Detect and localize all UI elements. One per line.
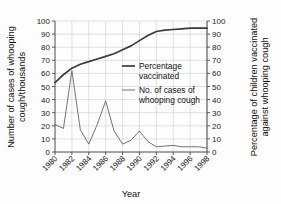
y-tick-label-right: 80 <box>212 43 221 52</box>
y-tick-label-left: 80 <box>41 43 50 52</box>
y-tick-label-left: 90 <box>41 30 50 39</box>
x-tick-label: 1998 <box>192 154 211 173</box>
y-tick-label-left: 20 <box>41 122 50 131</box>
legend-label-percentage-line2: vaccinated <box>139 71 179 81</box>
x-tick-label: 1992 <box>142 154 161 173</box>
y-tick-label-right: 90 <box>212 30 221 39</box>
y-axis-left-title-line1: Number of cases of whooping <box>6 26 16 148</box>
y-tick-label-left: 40 <box>41 96 50 105</box>
y-tick-label-right: 60 <box>212 69 221 78</box>
y-tick-label-right: 50 <box>212 83 221 92</box>
x-tick-label: 1996 <box>176 154 195 173</box>
x-tick-label: 1988 <box>108 154 127 173</box>
x-tick-label: 1984 <box>74 154 93 173</box>
y-tick-label-right: 40 <box>212 96 221 105</box>
legend-label-cases-line1: No. of cases of <box>139 85 196 95</box>
y-tick-label-left: 10 <box>41 135 50 144</box>
x-axis-title: Year <box>122 189 141 199</box>
y-tick-label-left: 50 <box>41 83 50 92</box>
series-line-cases <box>55 71 207 148</box>
x-tick-label: 1986 <box>91 154 110 173</box>
y-tick-label-left: 0 <box>46 148 51 157</box>
y-tick-label-left: 30 <box>41 109 50 118</box>
legend-label-cases-line2: whooping cough <box>138 95 200 105</box>
y-tick-label-right: 0 <box>212 148 217 157</box>
y-tick-label-right: 70 <box>212 56 221 65</box>
y-axis-left-title-line2: cough/thousands <box>17 52 27 122</box>
y-axis-left-ticks: 0102030405060708090100 <box>37 17 55 157</box>
y-tick-label-right: 100 <box>212 17 226 26</box>
x-tick-label: 1990 <box>125 154 144 173</box>
y-tick-label-left: 70 <box>41 56 50 65</box>
y-tick-label-right: 10 <box>212 135 221 144</box>
y-tick-label-left: 100 <box>37 17 51 26</box>
y-tick-label-left: 60 <box>41 69 50 78</box>
line-chart: 0102030405060708090100 01020304050607080… <box>0 0 281 204</box>
y-axis-right-title-line2: against whooping cough <box>260 37 270 136</box>
chart-figure: 0102030405060708090100 01020304050607080… <box>0 0 281 204</box>
y-tick-label-right: 30 <box>212 109 221 118</box>
chart-legend: Percentage vaccinated No. of cases of wh… <box>122 61 200 105</box>
x-tick-label: 1982 <box>57 154 76 173</box>
y-axis-right-ticks: 0102030405060708090100 <box>207 17 226 157</box>
legend-label-percentage-line1: Percentage <box>139 61 182 71</box>
x-tick-label: 1994 <box>159 154 178 173</box>
x-tick-label: 1980 <box>40 154 59 173</box>
y-tick-label-right: 20 <box>212 122 221 131</box>
x-axis-ticks: 1980198219841986198819901992199419961998 <box>40 152 211 173</box>
series-line-percentage <box>55 28 207 82</box>
y-axis-right-title-line1: Percentage of children vaccinated <box>249 18 259 156</box>
